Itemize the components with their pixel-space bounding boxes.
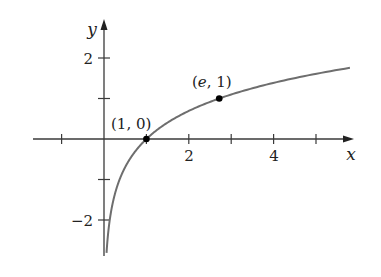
point-label-e-1: (e, 1): [192, 73, 232, 91]
y-tick-label-neg2: −2: [71, 212, 93, 230]
x-axis: [33, 134, 354, 144]
x-tick-label-4: 4: [269, 147, 279, 165]
x-axis-arrow-icon: [343, 136, 354, 143]
x-tick-label-2: 2: [184, 147, 194, 165]
y-axis-label: y: [86, 19, 97, 39]
x-axis-label: x: [346, 144, 356, 164]
y-tick-label-2: 2: [83, 50, 93, 68]
y-axis-arrow-icon: [101, 19, 108, 30]
point-label-1-0: (1, 0): [111, 115, 151, 133]
point-e-1: [216, 95, 223, 102]
chart-plot: 2 4 2 −2 x y (1, 0) (e, 1): [0, 0, 381, 277]
y-axis: [98, 19, 110, 256]
point-1-0: [143, 136, 150, 143]
ln-curve: [107, 68, 350, 253]
